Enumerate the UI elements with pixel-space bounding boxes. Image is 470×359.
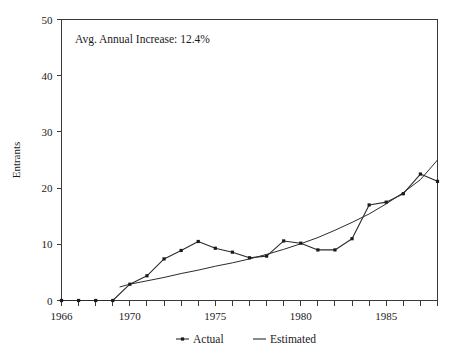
data-point-marker <box>265 255 268 258</box>
y-axis-tick-label: 10 <box>42 238 54 250</box>
data-point-marker <box>145 274 148 277</box>
data-point-marker <box>180 249 183 252</box>
data-point-marker <box>111 299 114 302</box>
legend-label-actual: Actual <box>193 333 224 345</box>
data-point-marker <box>197 240 200 243</box>
data-point-marker <box>316 248 319 251</box>
data-point-marker <box>60 299 63 302</box>
data-point-marker <box>333 248 336 251</box>
data-point-marker <box>282 239 285 242</box>
data-point-marker <box>162 257 165 260</box>
y-axis-tick-label: 30 <box>42 126 54 138</box>
x-axis-tick-label: 1970 <box>119 310 142 322</box>
legend-label-estimated: Estimated <box>270 333 316 345</box>
data-point-marker <box>350 237 353 240</box>
data-point-marker <box>77 299 80 302</box>
chart-background <box>0 0 470 359</box>
data-point-marker <box>436 180 439 183</box>
data-point-marker <box>299 242 302 245</box>
data-point-marker <box>402 192 405 195</box>
y-axis-tick-label: 50 <box>42 14 54 26</box>
data-point-marker <box>214 247 217 250</box>
chart-container: 01020304050 19661970197519801985 Entrant… <box>0 0 470 359</box>
y-axis-tick-label: 0 <box>47 295 53 307</box>
data-point-marker <box>231 251 234 254</box>
data-point-marker <box>419 172 422 175</box>
data-point-marker <box>368 203 371 206</box>
data-point-marker <box>385 201 388 204</box>
chart-annotation: Avg. Annual Increase: 12.4% <box>75 33 210 46</box>
y-axis-tick-label: 20 <box>42 182 54 194</box>
x-axis-tick-label: 1975 <box>204 310 227 322</box>
data-point-marker <box>94 299 97 302</box>
data-point-marker <box>128 283 131 286</box>
chart-svg: 01020304050 19661970197519801985 Entrant… <box>0 0 470 359</box>
data-point-marker <box>248 256 251 259</box>
x-axis-tick-label: 1985 <box>375 310 398 322</box>
x-axis-tick-label: 1980 <box>290 310 313 322</box>
x-axis-tick-label: 1966 <box>51 310 74 322</box>
legend-swatch-actual-marker <box>181 337 184 340</box>
y-axis-title: Entrants <box>10 142 22 179</box>
y-axis-tick-label: 40 <box>42 70 54 82</box>
